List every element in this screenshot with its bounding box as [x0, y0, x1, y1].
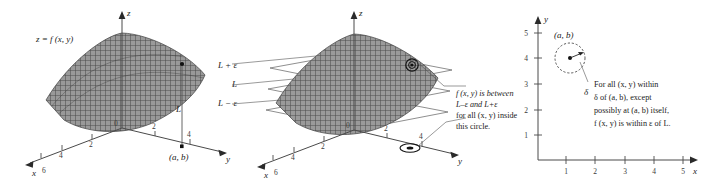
surface-mesh: [40, 33, 212, 132]
y-tick-2: 2: [524, 106, 528, 115]
y-tick-5: 5: [524, 29, 528, 38]
panel-middle-surface-with-bands: z y 2 4 x 2 4 6: [230, 0, 490, 181]
y-tick-2: 2: [384, 124, 388, 133]
caption-line-3: possibly at (a, b) itself,: [594, 106, 669, 115]
delta-label: δ: [584, 87, 589, 97]
svg-text:δ of (a, b), except: δ of (a, b), except: [594, 93, 652, 102]
y-axis: y 1 2 3 4 5: [524, 14, 548, 160]
y-axis-label: y: [543, 14, 548, 24]
caption-line-4: f (x, y) is within ε of L.: [594, 119, 670, 128]
z-axis-label: z: [358, 8, 363, 18]
x-axis: x 1 2 3 4 5: [538, 156, 698, 176]
z-axis-label: z: [126, 8, 131, 18]
x-tick-4: 4: [59, 151, 63, 160]
x-tick-3: 3: [623, 167, 627, 176]
svg-text:this circle.: this circle.: [456, 122, 490, 131]
caption-line-1: For all (x, y) within: [594, 80, 658, 89]
panel-left-surface-with-limit: z y 2 4 x 2 4 6: [0, 0, 240, 181]
x-axis-label: x: [692, 166, 697, 176]
x-tick-6: 6: [274, 168, 278, 177]
surface-equation-label: z = f (x, y): [35, 34, 73, 44]
origin-label: 0: [346, 121, 350, 130]
x-axis-label: x: [31, 168, 36, 178]
svg-text:possibly at (a, b) itself,: possibly at (a, b) itself,: [594, 106, 669, 115]
limit-definition-figure: z y 2 4 x 2 4 6: [0, 0, 712, 181]
caption-line-2: δ of (a, b), except: [594, 93, 652, 102]
x-tick-4: 4: [652, 167, 656, 176]
delta-disk-group: (a, b) δ: [554, 30, 589, 97]
y-tick-4: 4: [187, 130, 191, 139]
y-tick-1: 1: [524, 131, 528, 140]
panel-right-xy-plane: y 1 2 3 4 5 x: [490, 0, 712, 181]
base-point-marker: [180, 145, 184, 149]
x-tick-6: 6: [42, 166, 46, 175]
y-tick-4: 4: [524, 54, 528, 63]
caption-line-4: this circle.: [456, 122, 490, 131]
right-caption: For all (x, y) within δ of (a, b), excep…: [594, 80, 670, 128]
svg-text:For all (x, y) within: For all (x, y) within: [594, 80, 658, 89]
base-point-label: (a, b): [169, 152, 189, 162]
point-label-ab: (a, b): [554, 30, 574, 40]
x-tick-2: 2: [593, 167, 597, 176]
x-tick-2: 2: [89, 140, 93, 149]
surface-point: [180, 62, 184, 66]
segment-label-L: L: [175, 104, 181, 114]
y-tick-4: 4: [419, 132, 423, 141]
y-tick-2: 2: [152, 122, 156, 131]
surface-mesh: [276, 34, 438, 135]
y-axis-label: y: [457, 156, 462, 166]
x-tick-1: 1: [564, 167, 568, 176]
y-tick-3: 3: [524, 80, 528, 89]
x-axis-label: x: [263, 170, 268, 180]
delta-leader-line: [580, 62, 588, 82]
x-tick-2: 2: [321, 142, 325, 151]
x-tick-4: 4: [291, 153, 295, 162]
x-tick-5: 5: [681, 167, 685, 176]
svg-text:f (x, y) is within ε of L.: f (x, y) is within ε of L.: [594, 119, 670, 128]
delta-neighborhood-ellipse: [400, 144, 420, 152]
origin-label: 0: [114, 119, 118, 128]
